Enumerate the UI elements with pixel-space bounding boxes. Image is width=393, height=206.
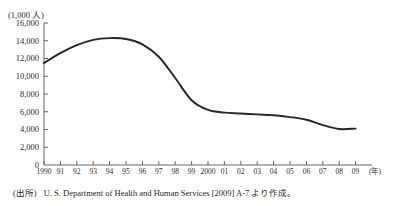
x-axis-ticks [44, 161, 356, 165]
x-tick-label: 99 [188, 167, 196, 177]
x-tick-label: 02 [237, 167, 245, 177]
x-tick-label: 09 [352, 167, 360, 177]
x-axis-unit-label: (年) [369, 167, 381, 177]
x-tick-label: 05 [286, 167, 294, 177]
x-tick-label: 93 [89, 167, 97, 177]
x-tick-label: 96 [139, 167, 147, 177]
x-axis-tick-labels: 1990919293949596979899200001020304050607… [0, 167, 393, 181]
x-tick-label: 03 [253, 167, 261, 177]
y-axis-ticks [44, 23, 48, 147]
x-tick-label: 95 [122, 167, 130, 177]
source-text: U. S. Department of Health and Human Ser… [44, 188, 297, 198]
x-tick-label: 92 [73, 167, 81, 177]
x-tick-label: 98 [171, 167, 179, 177]
x-tick-label: 91 [57, 167, 65, 177]
x-tick-label: 04 [270, 167, 278, 177]
x-tick-label: 08 [335, 167, 343, 177]
source-tag: (出所) [13, 188, 37, 198]
data-series-line [44, 38, 356, 129]
x-tick-label: 94 [106, 167, 114, 177]
x-tick-label: 97 [155, 167, 163, 177]
x-tick-label: 1990 [37, 167, 52, 177]
x-tick-label: 07 [319, 167, 327, 177]
figure-container: (1,000 人) 02,0004,0006,0008,00010,00012,… [0, 0, 393, 206]
axes-group [44, 23, 372, 165]
x-tick-label: 2000 [201, 167, 216, 177]
source-note: (出所)U. S. Department of Health and Human… [13, 188, 296, 199]
x-tick-label: 01 [221, 167, 229, 177]
x-tick-label: 06 [303, 167, 311, 177]
